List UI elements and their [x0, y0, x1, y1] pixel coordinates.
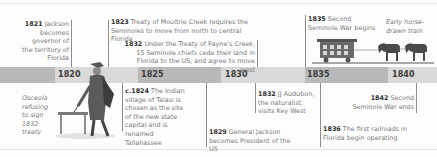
event-c1824: c.1824 The Indian village of Talasi is c…	[125, 87, 187, 147]
event-1832-audubon: 1832 JJ Audubon, the naturalist, visits …	[258, 90, 320, 116]
timeline-page: 1820 1825 1830 1835 1840 1821 Jackson be…	[0, 0, 437, 157]
event-1829: 1829 General Jackson becomes President o…	[209, 128, 301, 154]
event-year: 1832	[125, 40, 143, 48]
event-1835: 1835 Second Seminole War begins	[308, 15, 380, 32]
event-text: Under the Treaty of Payne's Creek, 15 Se…	[136, 40, 255, 74]
top-rule	[0, 3, 437, 4]
event-year: 1829	[209, 128, 227, 136]
event-year: c.1824	[125, 87, 149, 95]
event-year: 1842	[371, 94, 389, 102]
event-year: 1832	[258, 90, 276, 98]
osceola-illustration	[52, 60, 122, 140]
connector-1836	[320, 83, 321, 147]
event-year: 1836	[323, 125, 341, 133]
caption-osceola: Osceola refusing to sign 1832 treaty	[22, 94, 48, 137]
event-year: 1821	[25, 20, 43, 28]
event-1836: 1836 The first railroads in Florida begi…	[323, 125, 413, 142]
horse-drawn-train-illustration	[312, 36, 434, 66]
event-1821: 1821 Jackson becomes governor of the ter…	[22, 20, 69, 63]
connector-1835	[305, 15, 306, 67]
year-label-1835: 1835	[307, 70, 330, 79]
event-text: The Indian village of Talasi is chosen a…	[125, 87, 185, 147]
event-year: 1823	[111, 18, 129, 26]
event-1842: 1842 Second Seminole War ends	[352, 94, 414, 111]
connector-1832a	[257, 40, 258, 67]
band-segment	[0, 67, 55, 83]
caption-train: Early horse-drawn train	[386, 18, 428, 35]
connector-1829	[206, 83, 207, 147]
connector-1842	[416, 83, 417, 113]
event-1832-treaty: 1832 Under the Treaty of Payne's Creek, …	[124, 40, 255, 74]
connector-c1824	[122, 83, 123, 131]
year-label-1840: 1840	[392, 70, 415, 79]
connector-1832b	[255, 83, 256, 113]
event-year: 1835	[308, 15, 326, 23]
